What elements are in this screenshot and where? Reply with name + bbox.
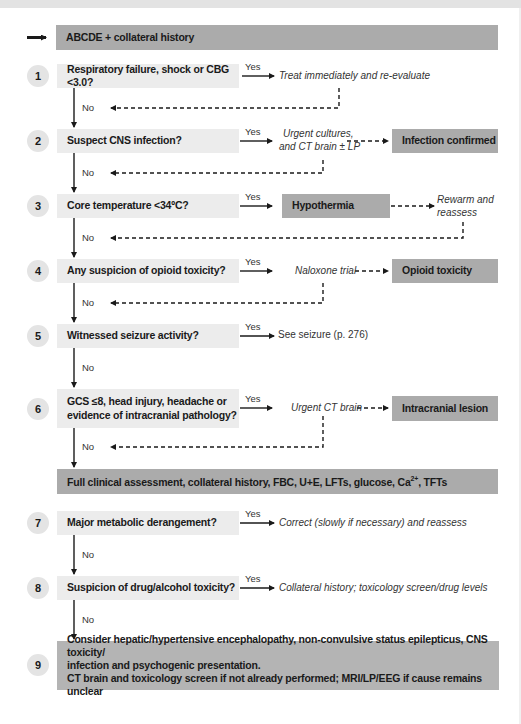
return-path-2 [111, 160, 323, 173]
no-label-2: No [82, 167, 94, 178]
step-6-action: Urgent CT brain [291, 401, 362, 414]
return-path-4 [111, 283, 323, 303]
step-3-follow-line2: reassess [437, 206, 477, 219]
step-4-action: Naloxone trial [295, 264, 356, 277]
yes-label-6: Yes [245, 393, 261, 404]
step-7-action: Correct (slowly if necessary) and reasse… [279, 516, 467, 529]
no-label-1: No [82, 102, 94, 113]
yes-label-4: Yes [245, 256, 261, 267]
no-label-7: No [82, 549, 94, 560]
return-path-3 [111, 222, 463, 238]
no-label-6: No [82, 441, 94, 452]
yes-label-3: Yes [245, 191, 261, 202]
no-label-3: No [82, 232, 94, 243]
no-label-4: No [82, 297, 94, 308]
return-path-1 [111, 88, 339, 108]
step-5-action[interactable]: See seizure (p. 276) [278, 329, 368, 340]
yes-label-1: Yes [245, 61, 261, 72]
no-label-8: No [82, 614, 94, 625]
step-8-action: Collateral history; toxicology screen/dr… [279, 581, 487, 594]
yes-label-8: Yes [245, 573, 261, 584]
step-3-follow-line1: Rewarm and [437, 193, 494, 206]
return-path-6 [111, 416, 323, 447]
step-2-action-line2: and CT brain ± LP [279, 140, 360, 153]
yes-label-5: Yes [245, 321, 261, 332]
step-2-action-line1: Urgent cultures, [283, 127, 354, 140]
connectors [0, 0, 521, 724]
yes-label-7: Yes [245, 508, 261, 519]
no-label-5: No [82, 362, 94, 373]
yes-label-2: Yes [245, 126, 261, 137]
step-1-action: Treat immediately and re-evaluate [279, 69, 430, 82]
